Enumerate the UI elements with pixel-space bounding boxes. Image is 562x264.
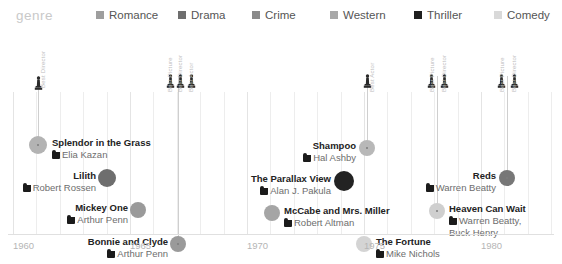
- film-director: Warren Beatty: [0, 182, 496, 194]
- movie-camera-icon: [284, 220, 292, 227]
- award-label: Best Director: [40, 51, 46, 88]
- film-dot[interactable]: [429, 203, 445, 219]
- film-entry[interactable]: Mickey OneArthur Penn: [0, 202, 128, 226]
- award-label: Best Actor: [188, 63, 194, 92]
- film-dot[interactable]: [499, 170, 515, 186]
- movie-camera-icon: [303, 155, 311, 162]
- legend-swatch-icon: [252, 11, 260, 19]
- film-title: Shampoo: [0, 140, 356, 152]
- legend-item-crime[interactable]: Crime: [252, 9, 296, 21]
- award-label: Best Picture: [429, 57, 435, 92]
- film-dot[interactable]: [130, 202, 146, 218]
- legend-title: genre: [16, 8, 53, 23]
- genre-legend: genre RomanceDramaCrimeWesternThrillerCo…: [0, 0, 562, 30]
- award-label: Best Picture: [499, 57, 505, 92]
- award-label: Best Director: [177, 55, 183, 92]
- film-director-name: Warren Beatty: [436, 182, 496, 193]
- legend-item-thriller[interactable]: Thriller: [414, 9, 462, 21]
- legend-item-romance[interactable]: Romance: [96, 9, 158, 21]
- film-director: Robert Altman: [284, 217, 390, 229]
- film-entry[interactable]: ShampooHal Ashby: [0, 140, 356, 164]
- film-director-name: Warren Beatty,: [459, 215, 521, 226]
- film-title: Mickey One: [0, 202, 128, 214]
- legend-label: Romance: [109, 9, 158, 21]
- legend-label: Comedy: [507, 9, 550, 21]
- legend-item-drama[interactable]: Drama: [178, 9, 226, 21]
- film-director: Hal Ashby: [0, 152, 356, 164]
- film-director: Arthur Penn: [0, 214, 128, 226]
- film-dot[interactable]: [264, 205, 280, 221]
- legend-label: Western: [343, 9, 386, 21]
- legend-swatch-icon: [178, 11, 186, 19]
- film-director-name: Robert Altman: [294, 217, 354, 228]
- award-label: Best Director: [511, 55, 517, 92]
- film-title: Reds: [0, 170, 496, 182]
- award-label: Best Actor: [369, 63, 375, 92]
- film-dot-core: [366, 147, 368, 149]
- legend-item-comedy[interactable]: Comedy: [494, 9, 550, 21]
- legend-item-western[interactable]: Western: [330, 9, 386, 21]
- award-label: Best Picture: [167, 57, 173, 92]
- plot-area: Best DirectorBest PictureBest DirectorBe…: [0, 30, 562, 234]
- film-dot[interactable]: [359, 140, 375, 156]
- film-dot-core: [436, 210, 438, 212]
- film-timeline-chart: genre RomanceDramaCrimeWesternThrillerCo…: [0, 0, 562, 264]
- film-director-name: Arthur Penn: [77, 214, 128, 225]
- gridline-1982: [528, 92, 529, 234]
- legend-label: Thriller: [427, 9, 462, 21]
- gridline-1983: [551, 92, 552, 234]
- legend-swatch-icon: [494, 11, 502, 19]
- film-title: Heaven Can Wait: [449, 203, 526, 215]
- legend-swatch-icon: [96, 11, 104, 19]
- time-axis: 19601965197019751980: [0, 234, 562, 264]
- legend-label: Drama: [191, 9, 226, 21]
- tick-label-1970: 1970: [247, 240, 268, 251]
- film-director: Warren Beatty,: [449, 215, 526, 227]
- legend-swatch-icon: [330, 11, 338, 19]
- film-director-name: Hal Ashby: [313, 152, 356, 163]
- tick-label-1975: 1975: [364, 240, 385, 251]
- tick-label-1980: 1980: [481, 240, 502, 251]
- film-title: McCabe and Mrs. Miller: [284, 205, 390, 217]
- movie-camera-icon: [426, 185, 434, 192]
- film-entry[interactable]: RedsWarren Beatty: [0, 170, 496, 194]
- film-dot-core: [506, 177, 508, 179]
- reds-award-stem: [507, 76, 508, 178]
- movie-camera-icon: [449, 218, 457, 225]
- gridline-1977: [411, 92, 412, 234]
- legend-swatch-icon: [414, 11, 422, 19]
- film-entry[interactable]: McCabe and Mrs. MillerRobert Altman: [284, 205, 390, 229]
- axis-rule: [8, 234, 554, 235]
- legend-label: Crime: [265, 9, 296, 21]
- tick-label-1965: 1965: [130, 240, 151, 251]
- award-label: Best Director: [441, 55, 447, 92]
- tick-label-1960: 1960: [13, 240, 34, 251]
- movie-camera-icon: [67, 217, 75, 224]
